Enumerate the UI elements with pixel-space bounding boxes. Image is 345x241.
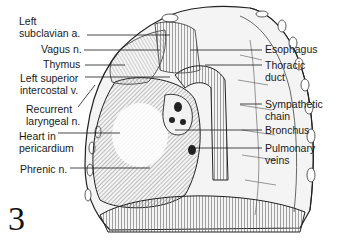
label-thoracic-duct: Thoracic duct: [265, 60, 305, 83]
label-vagus-n: Vagus n.: [41, 44, 82, 56]
label-thymus: Thymus: [43, 59, 80, 71]
label-phrenic-n: Phrenic n.: [20, 164, 67, 176]
label-sympathetic-chain: Sympathetic chain: [265, 99, 323, 122]
label-left-superior-intercostal-v: Left superior intercostal v.: [20, 73, 78, 96]
figure-number: 3: [8, 202, 25, 236]
label-recurrent-laryngeal-n: Recurrent laryngeal n.: [26, 104, 80, 127]
diagram-canvas: Left subclavian a. Vagus n. Thymus Left …: [0, 0, 345, 241]
label-pulmonary-veins: Pulmonary veins: [265, 143, 315, 166]
label-esophagus: Esophagus: [265, 44, 318, 56]
heart-region: [93, 78, 200, 208]
label-bronchus: Bronchus: [265, 125, 309, 137]
label-left-subclavian-a: Left subclavian a.: [19, 16, 80, 39]
label-heart-in-pericardium: Heart in pericardium: [19, 131, 74, 154]
